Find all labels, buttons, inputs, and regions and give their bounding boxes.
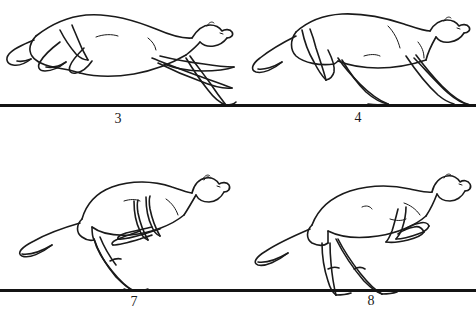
panel-frame-3 [0, 0, 238, 156]
panel-frame-4 [238, 0, 476, 156]
frame-label-4: 4 [348, 110, 368, 126]
cheetah-gait-figure: 3 4 7 8 [0, 0, 476, 313]
frame-label-7: 7 [124, 294, 144, 310]
ground-line-bottom [0, 289, 476, 292]
cheetah-drawing-4 [238, 0, 476, 156]
frame-label-8: 8 [361, 293, 381, 309]
cheetah-drawing-3 [0, 0, 238, 156]
ground-line-top [0, 104, 476, 107]
frame-label-3: 3 [108, 111, 128, 127]
